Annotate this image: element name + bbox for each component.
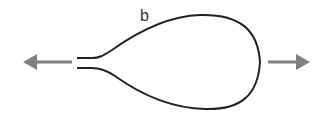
loop-diagram: b bbox=[0, 0, 318, 126]
left-arrow-icon bbox=[23, 54, 72, 70]
right-arrow-icon bbox=[268, 54, 310, 70]
teardrop-loop bbox=[77, 15, 260, 109]
loop-label: b bbox=[140, 7, 149, 24]
